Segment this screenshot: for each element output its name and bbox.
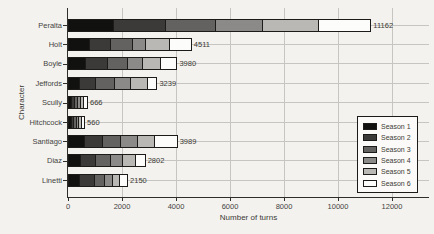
legend-item-label: Season 2 — [381, 134, 411, 141]
bar-segment — [82, 117, 85, 128]
legend-swatch — [363, 134, 377, 141]
bar-segment — [115, 78, 132, 89]
bar-segment — [69, 58, 86, 69]
xtick-mark — [392, 198, 393, 201]
ytick-label-holt: Holt — [0, 40, 62, 49]
bar-holt — [68, 38, 192, 51]
bar-segment — [69, 20, 114, 31]
xtick-mark — [176, 198, 177, 201]
bar-boyle — [68, 57, 177, 70]
xtick-label: 6000 — [210, 202, 250, 211]
ytick-label-jeffords: Jeffords — [0, 79, 62, 88]
xtick-label: 0 — [48, 202, 88, 211]
bar-value-label: 4511 — [194, 40, 210, 49]
bar-segment — [143, 58, 161, 69]
legend-swatch — [363, 123, 377, 130]
bar-value-label: 666 — [90, 98, 103, 107]
ytick-label-peralta: Peralta — [0, 21, 62, 30]
bar-segment — [123, 155, 136, 166]
bar-segment — [113, 175, 120, 186]
bar-diaz — [68, 154, 146, 167]
bar-segment — [138, 136, 155, 147]
bar-segment — [216, 20, 263, 31]
xtick-label: 4000 — [156, 202, 196, 211]
y-axis-line — [67, 8, 68, 198]
bar-segment — [95, 175, 105, 186]
ytick-mark — [63, 103, 67, 104]
legend-item: Season 2 — [363, 132, 412, 143]
legend-item-label: Season 6 — [381, 180, 411, 187]
bar-segment — [80, 175, 95, 186]
bar-segment — [148, 78, 156, 89]
bar-value-label: 11162 — [373, 21, 393, 30]
bar-value-label: 3239 — [159, 79, 176, 88]
xtick-mark — [68, 198, 69, 201]
bar-segment — [121, 136, 138, 147]
ytick-label-scully: Scully — [0, 98, 62, 107]
ytick-label-hitchcock: Hitchcock — [0, 118, 62, 127]
bar-segment — [103, 136, 121, 147]
bar-segment — [128, 58, 143, 69]
bar-peralta — [68, 19, 371, 32]
bar-segment — [69, 175, 80, 186]
ytick-label-santiago: Santiago — [0, 137, 62, 146]
bar-segment — [263, 20, 319, 31]
ytick-mark — [63, 180, 67, 181]
xtick-mark — [122, 198, 123, 201]
ytick-mark — [63, 64, 67, 65]
bar-segment — [85, 136, 103, 147]
legend-swatch — [363, 157, 377, 164]
x-axis-title: Number of turns — [68, 213, 429, 222]
ytick-mark — [63, 44, 67, 45]
bar-segment — [90, 39, 112, 50]
bar-segment — [114, 20, 166, 31]
bar-value-label: 3989 — [180, 137, 197, 146]
bar-value-label: 560 — [87, 118, 100, 127]
bar-value-label: 3980 — [179, 59, 196, 68]
legend-swatch — [363, 180, 377, 187]
bar-segment — [111, 155, 123, 166]
y-gridline — [68, 102, 429, 103]
bar-segment — [131, 78, 148, 89]
bar-segment — [96, 155, 111, 166]
xtick-label: 12000 — [372, 202, 412, 211]
bar-value-label: 2802 — [148, 156, 165, 165]
legend-item: Season 5 — [363, 166, 412, 177]
ytick-mark — [63, 122, 67, 123]
bar-segment — [69, 155, 81, 166]
ytick-mark — [63, 83, 67, 84]
ytick-label-linetti: Linetti — [0, 176, 62, 185]
bar-segment — [120, 175, 127, 186]
legend-item-label: Season 4 — [381, 157, 411, 164]
bar-segment — [80, 78, 97, 89]
ytick-mark — [63, 141, 67, 142]
bar-segment — [81, 155, 96, 166]
bar-segment — [84, 97, 87, 108]
legend-item: Season 4 — [363, 155, 412, 166]
bar-segment — [108, 58, 128, 69]
bar-segment — [86, 58, 108, 69]
xtick-label: 2000 — [102, 202, 142, 211]
xtick-label: 10000 — [318, 202, 358, 211]
bar-segment — [133, 39, 146, 50]
ytick-label-diaz: Diaz — [0, 156, 62, 165]
legend-item: Season 1 — [363, 121, 412, 132]
bar-linetti — [68, 174, 128, 187]
bar-segment — [146, 39, 169, 50]
legend-item: Season 3 — [363, 144, 412, 155]
ytick-mark — [63, 161, 67, 162]
legend-item: Season 6 — [363, 177, 412, 188]
bar-segment — [166, 20, 216, 31]
legend-swatch — [363, 168, 377, 175]
bar-segment — [170, 39, 191, 50]
legend-swatch — [363, 146, 377, 153]
xtick-label: 8000 — [264, 202, 304, 211]
bar-value-label: 2150 — [130, 176, 147, 185]
bar-segment — [69, 136, 85, 147]
legend-item-label: Season 5 — [381, 168, 411, 175]
bar-segment — [69, 78, 80, 89]
bar-segment — [136, 155, 144, 166]
bar-santiago — [68, 135, 178, 148]
xtick-mark — [338, 198, 339, 201]
xtick-mark — [284, 198, 285, 201]
